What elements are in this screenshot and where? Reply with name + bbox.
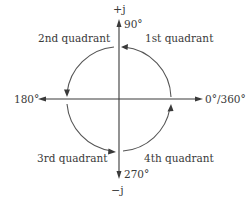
negative-imag-label: −j — [111, 184, 124, 197]
positive-imag-label: +j — [113, 3, 126, 16]
arc-arrowhead-icon — [168, 104, 174, 112]
first-quadrant-label: 1st quadrant — [145, 32, 214, 44]
real-axis — [38, 97, 203, 102]
arrow-down-icon — [117, 171, 122, 179]
arc-third-quadrant — [67, 104, 112, 151]
arc-second-quadrant — [67, 47, 114, 93]
arc-fourth-quadrant — [123, 108, 170, 151]
arc-arrowhead-icon — [121, 44, 128, 50]
quadrant-diagram: +j 90° 180° 0°/360° 270° −j 1st quadrant… — [0, 0, 247, 206]
arrow-up-icon — [117, 19, 122, 27]
arc-arrowhead-icon — [108, 149, 116, 155]
arc-arrowhead-icon — [64, 90, 70, 98]
angle-0-360-label: 0°/360° — [205, 93, 246, 105]
angle-180-label: 180° — [14, 93, 39, 105]
angle-270-label: 270° — [124, 168, 149, 180]
arc-first-quadrant — [124, 47, 171, 97]
angle-90-label: 90° — [124, 18, 143, 30]
second-quadrant-label: 2nd quadrant — [38, 32, 111, 44]
arrow-right-icon — [195, 97, 203, 102]
fourth-quadrant-label: 4th quadrant — [144, 152, 215, 164]
third-quadrant-label: 3rd quadrant — [37, 152, 108, 164]
